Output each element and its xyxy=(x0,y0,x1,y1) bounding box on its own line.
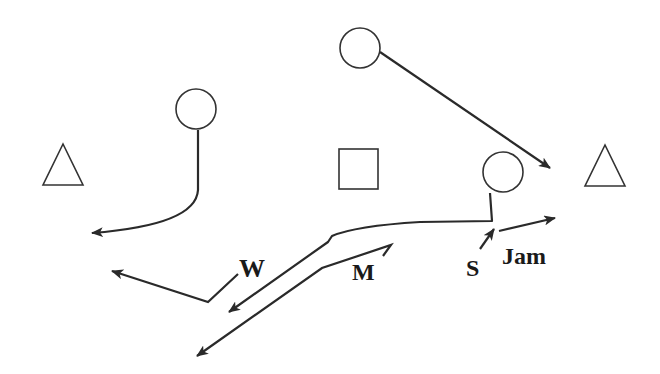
w-route xyxy=(112,271,238,302)
label-w: W xyxy=(239,254,265,283)
right-triangle-player xyxy=(585,145,625,186)
right-circle-route xyxy=(229,193,492,312)
left-triangle-player xyxy=(43,144,83,185)
label-jam: Jam xyxy=(502,243,546,269)
top-circle-player xyxy=(340,28,380,68)
left-circle-player xyxy=(176,89,216,129)
label-m: M xyxy=(352,259,375,285)
top-circle-route xyxy=(380,52,550,168)
label-s: S xyxy=(466,255,479,281)
s-arrow xyxy=(480,229,494,249)
right-circle-player xyxy=(483,152,523,192)
center-square-player xyxy=(339,149,378,189)
jam-arrow xyxy=(499,218,555,231)
left-circle-route xyxy=(92,130,198,233)
diagram-svg: W M S Jam xyxy=(0,0,660,374)
play-diagram: W M S Jam xyxy=(0,0,660,374)
